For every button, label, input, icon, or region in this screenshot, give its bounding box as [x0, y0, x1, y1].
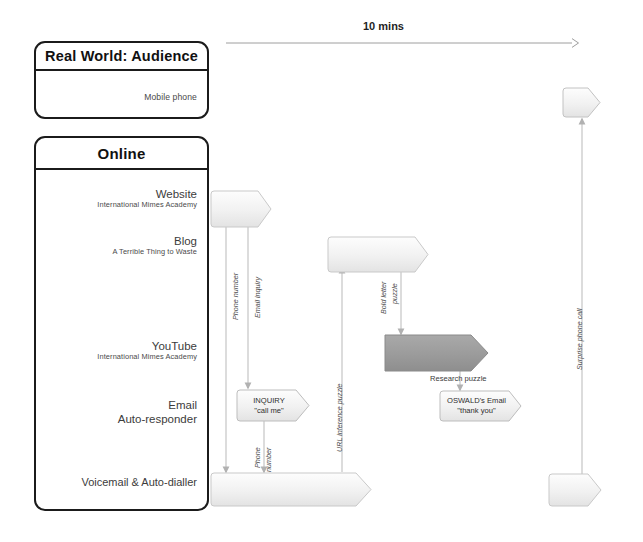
panel-title-real-world: Real World: Audience — [36, 43, 207, 71]
panel-online: Online Website International Mimes Acade… — [34, 136, 209, 511]
lane-email-title: Email — [42, 398, 197, 412]
node-blog[interactable] — [328, 237, 428, 272]
connector-label-email-inquiry: Email inquiry — [253, 277, 262, 318]
panel-body-online: Website International Mimes Academy Blog… — [36, 170, 207, 513]
panel-body-real-world: Mobile phone — [36, 71, 207, 121]
lane-email: Email Auto-responder — [42, 398, 197, 427]
lane-voicemail-title: Voicemail & Auto-dialler — [39, 476, 197, 488]
node-mobile-phone-bottom[interactable] — [549, 474, 601, 506]
connector-label-bold-letter-a: Bold letter — [379, 282, 388, 314]
node-oswald-line1: OSWALD's Email — [447, 396, 506, 406]
lane-blog: Blog A Terrible Thing to Waste — [42, 235, 197, 256]
lane-blog-sub: A Terrible Thing to Waste — [42, 248, 197, 256]
node-mobile-phone-top[interactable] — [563, 88, 600, 117]
lane-website-title: Website — [42, 188, 197, 201]
node-oswald-email-text[interactable]: OSWALD's Email "thank you" — [440, 391, 521, 421]
node-voicemail[interactable] — [211, 473, 371, 506]
diagram-canvas: 10 mins Real World: Audience Mobile phon… — [0, 0, 643, 542]
lane-youtube: YouTube International Mimes Academy — [42, 340, 197, 361]
lane-website: Website International Mimes Academy — [42, 188, 197, 209]
connector-label-url-inference: URL inference puzzle — [335, 383, 344, 452]
timeline-label: 10 mins — [363, 20, 404, 32]
connector-label-phone-number-2a: Phone — [253, 447, 262, 468]
lane-blog-title: Blog — [42, 235, 197, 248]
connector-label-research-puzzle: Research puzzle — [430, 374, 487, 383]
lane-youtube-title: YouTube — [42, 340, 197, 353]
lane-mobile-phone: Mobile phone — [47, 93, 197, 103]
node-youtube[interactable] — [385, 335, 488, 371]
lane-youtube-sub: International Mimes Academy — [42, 353, 197, 361]
node-inquiry-text[interactable]: INQUIRY "call me" — [237, 390, 309, 422]
connector-label-phone-number-2b: number — [264, 448, 273, 472]
timeline-arrow — [226, 39, 579, 48]
node-website[interactable] — [211, 191, 271, 227]
lane-email-sub: Auto-responder — [42, 412, 197, 426]
lane-website-sub: International Mimes Academy — [42, 201, 197, 209]
connector-label-phone-number-1: Phone number — [231, 273, 240, 320]
lane-mobile-phone-label: Mobile phone — [47, 93, 197, 103]
lane-voicemail: Voicemail & Auto-dialler — [39, 476, 197, 488]
node-inquiry-line1: INQUIRY — [253, 396, 285, 406]
node-inquiry-line2: "call me" — [253, 406, 285, 416]
panel-title-online: Online — [36, 138, 207, 170]
connector-label-surprise-call: Surprise phone call — [575, 308, 584, 370]
node-oswald-line2: "thank you" — [447, 406, 506, 416]
connector-label-bold-letter-b: puzzle — [390, 283, 399, 304]
panel-real-world-audience: Real World: Audience Mobile phone — [34, 41, 209, 119]
